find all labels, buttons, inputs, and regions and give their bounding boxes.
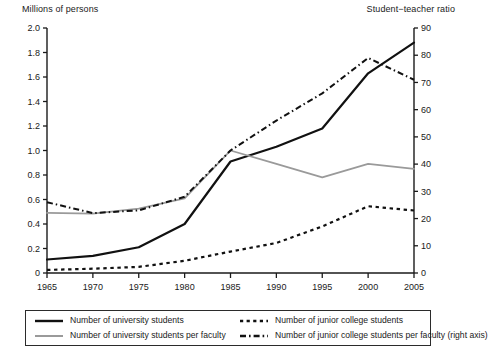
y-tick-label: 1.0 bbox=[27, 146, 40, 156]
dotted-black-line-swatch bbox=[239, 316, 269, 326]
series-line-2 bbox=[47, 206, 414, 270]
y-tick-label: 1.8 bbox=[27, 48, 40, 58]
line-chart: 00.20.40.60.81.01.21.41.61.82.0010203040… bbox=[0, 0, 461, 300]
y2-tick-label: 20 bbox=[421, 214, 431, 224]
series-line-1 bbox=[47, 151, 414, 214]
y2-tick-label: 90 bbox=[421, 23, 431, 33]
y-tick-label: 0.6 bbox=[27, 195, 40, 205]
solid-grey-line-swatch bbox=[34, 331, 64, 341]
chart-legend: Number of university students Number of … bbox=[25, 310, 431, 346]
dashdot-black-line-swatch bbox=[239, 331, 269, 341]
y2-tick-label: 10 bbox=[421, 241, 431, 251]
legend-item-university-students-per-faculty: Number of university students per facult… bbox=[34, 331, 239, 341]
y2-tick-label: 60 bbox=[421, 105, 431, 115]
legend-item-junior-college-students: Number of junior college students bbox=[239, 316, 488, 326]
y-tick-label: 2.0 bbox=[27, 23, 40, 33]
x-tick-label: 2005 bbox=[404, 282, 424, 292]
legend-item-university-students: Number of university students bbox=[34, 316, 239, 326]
x-tick-label: 1985 bbox=[220, 282, 240, 292]
solid-black-line-swatch bbox=[34, 316, 64, 326]
legend-item-junior-college-per-faculty: Number of junior college students per fa… bbox=[239, 331, 488, 341]
y2-tick-label: 80 bbox=[421, 50, 431, 60]
y2-tick-label: 30 bbox=[421, 187, 431, 197]
x-tick-label: 2000 bbox=[358, 282, 378, 292]
x-tick-label: 1980 bbox=[175, 282, 195, 292]
x-tick-label: 1970 bbox=[83, 282, 103, 292]
y2-tick-label: 40 bbox=[421, 159, 431, 169]
legend-label: Number of junior college students per fa… bbox=[275, 331, 488, 340]
legend-label: Number of university students per facult… bbox=[70, 331, 226, 340]
y-tick-label: 0.8 bbox=[27, 170, 40, 180]
y-tick-label: 0.2 bbox=[27, 244, 40, 254]
x-tick-label: 1995 bbox=[312, 282, 332, 292]
y-tick-label: 0 bbox=[35, 268, 40, 278]
y-tick-label: 1.2 bbox=[27, 121, 40, 131]
series-line-3 bbox=[47, 58, 414, 213]
y-tick-label: 0.4 bbox=[27, 219, 40, 229]
y2-tick-label: 70 bbox=[421, 78, 431, 88]
y-tick-label: 1.6 bbox=[27, 72, 40, 82]
x-tick-label: 1990 bbox=[266, 282, 286, 292]
y2-tick-label: 0 bbox=[421, 268, 426, 278]
x-tick-label: 1965 bbox=[37, 282, 57, 292]
chart-plot-area: 00.20.40.60.81.01.21.41.61.82.0010203040… bbox=[0, 0, 461, 300]
x-tick-label: 1975 bbox=[129, 282, 149, 292]
y-tick-label: 1.4 bbox=[27, 97, 40, 107]
y2-tick-label: 50 bbox=[421, 132, 431, 142]
legend-label: Number of junior college students bbox=[275, 316, 403, 325]
legend-label: Number of university students bbox=[70, 316, 184, 325]
